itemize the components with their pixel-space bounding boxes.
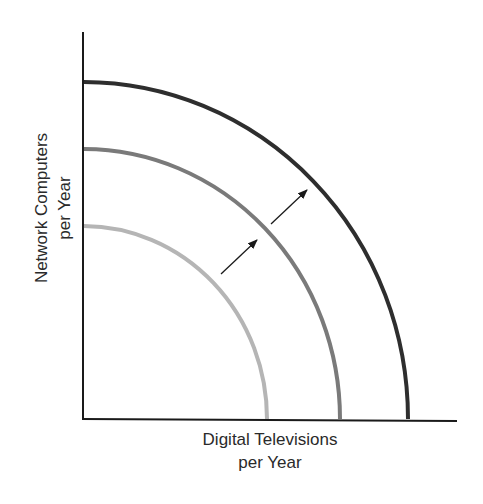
inner-ppf-curve: [84, 226, 267, 419]
x-axis-label: Digital Televisions per Year: [160, 428, 380, 474]
shift-arrow-2: [271, 190, 307, 224]
x-axis-label-line2: per Year: [160, 451, 380, 474]
y-axis-label-line1: Network Computers: [30, 98, 53, 318]
y-axis-label: Network Computers per Year: [30, 98, 76, 318]
y-axis-label-line2: per Year: [53, 98, 76, 318]
shift-arrow-1: [221, 240, 257, 274]
x-axis: [82, 419, 457, 421]
x-axis-label-line1: Digital Televisions: [160, 428, 380, 451]
